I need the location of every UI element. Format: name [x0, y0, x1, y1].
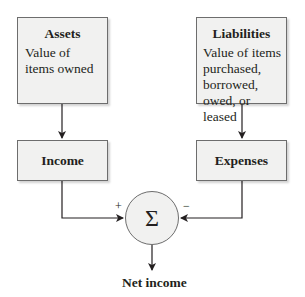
income-box: Income — [17, 140, 108, 181]
income-title: Income — [41, 153, 84, 169]
summation-node: Σ — [125, 191, 179, 245]
liabilities-title: Liabilities — [197, 26, 286, 42]
expenses-title: Expenses — [215, 153, 268, 169]
minus-sign: − — [183, 199, 190, 214]
liabilities-box: Liabilities Value of items purchased, bo… — [196, 17, 287, 104]
assets-box: Assets Value of items owned — [17, 17, 108, 104]
assets-description: Value of items owned — [18, 45, 107, 77]
liabilities-description: Value of items purchased, borrowed, owed… — [197, 45, 286, 125]
sigma-symbol: Σ — [145, 205, 159, 232]
plus-sign: + — [115, 199, 122, 214]
assets-title: Assets — [18, 26, 107, 42]
net-income-label: Net income — [122, 275, 187, 291]
expenses-box: Expenses — [196, 140, 287, 181]
